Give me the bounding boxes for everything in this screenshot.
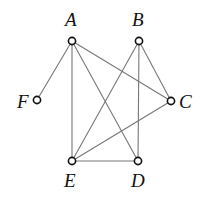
graph-diagram: ABCDEF — [0, 0, 199, 205]
node-F — [33, 96, 40, 103]
node-A — [68, 37, 75, 44]
node-label-E: E — [63, 170, 76, 191]
nodes — [33, 37, 174, 164]
node-B — [135, 37, 142, 44]
edge-B-C — [139, 41, 171, 101]
graph-canvas: ABCDEF — [0, 0, 199, 205]
node-label-F: F — [16, 91, 29, 112]
node-label-B: B — [132, 9, 144, 30]
node-label-C: C — [179, 91, 192, 112]
node-label-D: D — [130, 170, 145, 191]
edge-A-C — [72, 41, 171, 101]
node-E — [68, 157, 75, 164]
edge-C-E — [72, 101, 171, 161]
node-label-A: A — [63, 9, 77, 30]
node-D — [134, 157, 141, 164]
edges — [37, 41, 171, 161]
node-C — [167, 97, 174, 104]
edge-A-F — [37, 41, 72, 100]
edge-B-D — [138, 41, 139, 161]
